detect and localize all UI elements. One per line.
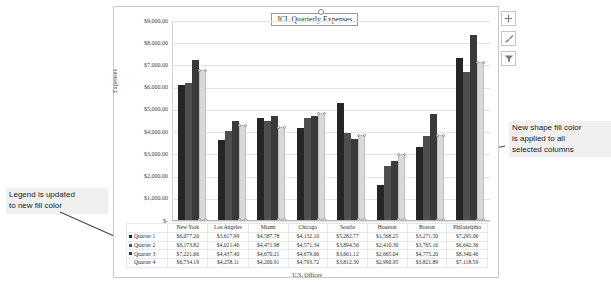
selection-handle[interactable] — [323, 112, 326, 115]
table-cell: $6,642.36 — [447, 241, 488, 250]
table-cell: $6,077.20 — [168, 232, 208, 241]
table-cell: $4,587.78 — [248, 232, 288, 241]
selection-handle[interactable] — [357, 134, 360, 137]
bar-group[interactable] — [337, 103, 365, 220]
selection-handle[interactable] — [363, 134, 366, 137]
bar-houston-q1[interactable] — [377, 185, 384, 220]
y-axis-tick: $3,000.00 — [122, 151, 168, 157]
legend-label: Quarter 1 — [134, 233, 155, 239]
bar-seattle-q4[interactable] — [358, 135, 365, 220]
table-header-miami: Miami — [248, 224, 288, 233]
legend-entry-quarter-4[interactable]: Quarter 4 — [127, 259, 168, 268]
chart-object[interactable]: JCL Quarterly Expenses Expenses $9,000.0… — [113, 6, 499, 278]
y-axis-tick: $7,000.00 — [122, 62, 168, 68]
bar-philadelphia-q2[interactable] — [463, 72, 470, 220]
table-cell: $1,568.25 — [367, 232, 407, 241]
chart-filters-button[interactable] — [501, 51, 516, 66]
bar-boston-q1[interactable] — [416, 147, 423, 220]
bar-miami-q2[interactable] — [264, 121, 271, 220]
selection-handle[interactable] — [476, 61, 479, 64]
selection-handle[interactable] — [397, 153, 400, 156]
bar-chicago-q3[interactable] — [311, 116, 318, 220]
legend-entry-quarter-2[interactable]: Quarter 2 — [127, 241, 168, 250]
legend-swatch-icon — [129, 252, 132, 255]
bar-los-angeles-q1[interactable] — [218, 140, 225, 220]
callout-legend-updated: Legend is updated to new fill color — [6, 188, 108, 214]
bar-philadelphia-q4[interactable] — [477, 62, 484, 220]
callout-fill-applied: New shape fill color is applied to all s… — [509, 121, 611, 157]
table-cell: $2,410.30 — [367, 241, 407, 250]
bar-chicago-q1[interactable] — [297, 128, 304, 220]
bar-seattle-q3[interactable] — [351, 139, 358, 220]
bar-group[interactable] — [456, 35, 484, 220]
table-row: Quarter 2$6,173.82$4,021.46$4,471.98$4,5… — [127, 241, 488, 250]
bar-group[interactable] — [377, 154, 405, 220]
gridline — [172, 65, 490, 66]
bar-los-angeles-q3[interactable] — [232, 121, 239, 220]
bar-los-angeles-q2[interactable] — [225, 131, 232, 220]
bar-group[interactable] — [178, 60, 206, 220]
selection-handle[interactable] — [204, 69, 207, 72]
table-cell: $7,221.66 — [168, 250, 208, 259]
table-cell: $3,894.56 — [328, 241, 368, 250]
table-cell: $4,679.06 — [288, 250, 328, 259]
bar-seattle-q1[interactable] — [337, 103, 344, 220]
chart-elements-button[interactable] — [501, 11, 516, 26]
bar-miami-q1[interactable] — [257, 118, 264, 220]
selection-handle[interactable] — [436, 134, 439, 137]
bar-houston-q3[interactable] — [391, 161, 398, 220]
chart-styles-button[interactable] — [501, 31, 516, 46]
bar-seattle-q2[interactable] — [344, 133, 351, 220]
funnel-icon — [504, 54, 514, 64]
y-axis-line — [172, 21, 173, 221]
bar-new-york-q1[interactable] — [178, 85, 185, 220]
selection-handle[interactable] — [238, 124, 241, 127]
selection-handle[interactable] — [482, 61, 485, 64]
bar-boston-q3[interactable] — [430, 114, 437, 220]
table-header-new-york: New York — [168, 224, 208, 233]
bar-group[interactable] — [218, 121, 246, 220]
selection-handle[interactable] — [283, 126, 286, 129]
table-cell: $4,471.98 — [248, 241, 288, 250]
table-header-boston: Boston — [407, 224, 447, 233]
paintbrush-icon — [504, 34, 514, 44]
selection-handle[interactable] — [317, 112, 320, 115]
legend-entry-quarter-1[interactable]: Quarter 1 — [127, 232, 168, 241]
bar-boston-q2[interactable] — [423, 136, 430, 220]
gridline — [172, 221, 490, 222]
table-cell: $6,734.19 — [168, 259, 208, 268]
bar-philadelphia-q1[interactable] — [456, 58, 463, 220]
table-cell: $4,258.11 — [208, 259, 249, 268]
chart-title-handle[interactable] — [318, 9, 324, 15]
bar-group[interactable] — [416, 114, 444, 220]
selection-handle[interactable] — [244, 124, 247, 127]
bar-group[interactable] — [257, 116, 285, 220]
selection-handle[interactable] — [198, 69, 201, 72]
table-row: Quarter 3$7,221.66$4,437.40$4,670.21$4,6… — [127, 250, 488, 259]
bar-miami-q4[interactable] — [278, 127, 285, 220]
bar-new-york-q4[interactable] — [199, 70, 206, 220]
bar-miami-q3[interactable] — [271, 116, 278, 220]
selection-handle[interactable] — [442, 134, 445, 137]
legend-entry-quarter-3[interactable]: Quarter 3 — [127, 250, 168, 259]
bar-chicago-q2[interactable] — [304, 118, 311, 220]
bar-group[interactable] — [297, 113, 325, 220]
selection-handle[interactable] — [277, 126, 280, 129]
bar-houston-q2[interactable] — [384, 166, 391, 220]
table-cell: $8,340.46 — [447, 250, 488, 259]
legend-swatch-icon — [129, 235, 132, 238]
bar-chicago-q4[interactable] — [318, 113, 325, 220]
y-axis-tick: $6,000.00 — [122, 84, 168, 90]
chart-data-table[interactable]: New YorkLos AngelesMiamiChicagoSeattleHo… — [126, 223, 488, 268]
table-row: Quarter 1$6,077.20$3,617.99$4,587.78$4,1… — [127, 232, 488, 241]
bar-new-york-q2[interactable] — [185, 83, 192, 220]
bar-los-angeles-q4[interactable] — [239, 125, 246, 220]
table-cell: $3,271.50 — [407, 232, 447, 241]
legend-swatch-icon — [129, 244, 132, 247]
selection-handle[interactable] — [403, 153, 406, 156]
plot-area[interactable] — [172, 21, 490, 221]
bar-houston-q4[interactable] — [398, 154, 405, 220]
bar-boston-q4[interactable] — [437, 135, 444, 220]
bar-new-york-q3[interactable] — [192, 60, 199, 220]
table-cell: $3,617.99 — [208, 232, 249, 241]
